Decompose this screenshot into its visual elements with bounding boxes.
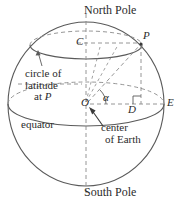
label-circle-of-latitude-line3-prefix: at — [34, 90, 45, 102]
radius-o-to-p — [88, 45, 140, 102]
label-center-of-earth-line2: of Earth — [101, 134, 141, 146]
label-point-c: C — [76, 36, 83, 48]
label-center-of-earth-line1: center — [101, 121, 128, 133]
segment-o-to-c — [86, 47, 100, 102]
label-north-pole: North Pole — [84, 4, 136, 17]
segment-o-to-latitude-left — [86, 45, 118, 102]
label-point-o: O — [81, 97, 89, 109]
label-center-of-earth: center of Earth — [101, 122, 141, 145]
label-point-e: E — [167, 97, 174, 109]
label-point-d: D — [128, 104, 136, 116]
point-marker-p — [139, 42, 142, 45]
label-point-p: P — [143, 30, 150, 42]
label-angle-alpha: α — [103, 92, 109, 104]
label-circle-of-latitude-line3: at P — [25, 91, 61, 103]
label-circle-of-latitude: circle of latitude at P — [25, 68, 61, 103]
label-circle-of-latitude-line1: circle of — [25, 67, 61, 79]
label-south-pole: South Pole — [84, 186, 136, 199]
label-equator: equator — [21, 119, 54, 131]
label-circle-of-latitude-line3-point: P — [45, 90, 52, 102]
sphere-latitude-diagram: North Pole South Pole P C O D E α circle… — [0, 0, 183, 205]
